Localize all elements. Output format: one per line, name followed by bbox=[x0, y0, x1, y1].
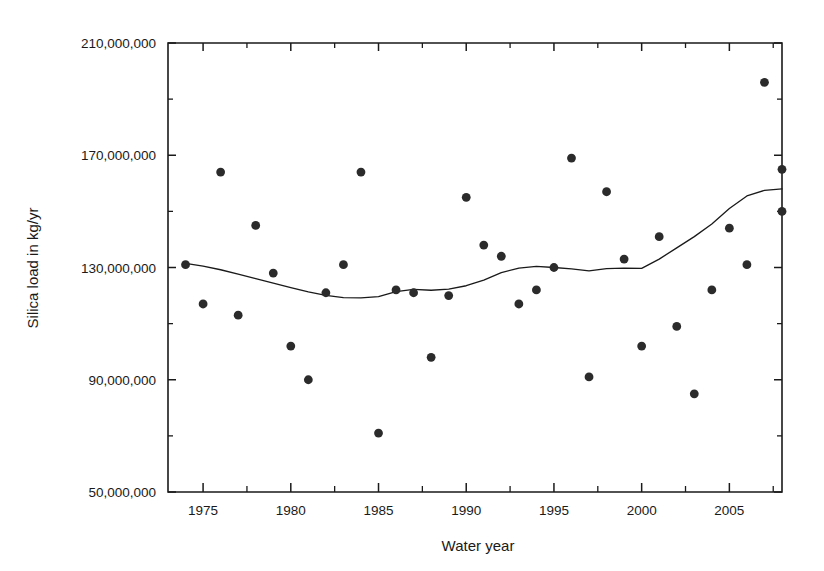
y-tick-label: 50,000,000 bbox=[88, 485, 156, 500]
data-point bbox=[725, 224, 734, 233]
data-point bbox=[216, 168, 225, 177]
data-point bbox=[409, 288, 418, 297]
y-axis-title: Silica load in kg/yr bbox=[24, 208, 41, 329]
data-point bbox=[479, 241, 488, 250]
data-point bbox=[778, 165, 787, 174]
data-point bbox=[427, 353, 436, 362]
data-point bbox=[357, 168, 366, 177]
data-point bbox=[181, 260, 190, 269]
data-point bbox=[374, 429, 383, 438]
data-point bbox=[269, 269, 278, 278]
x-tick-label: 1980 bbox=[276, 503, 306, 518]
data-point bbox=[339, 260, 348, 269]
data-point bbox=[602, 187, 611, 196]
data-point bbox=[637, 342, 646, 351]
data-point bbox=[655, 232, 664, 241]
data-point bbox=[251, 221, 260, 230]
data-point bbox=[620, 255, 629, 264]
data-point bbox=[567, 154, 576, 163]
chart-canvas: 50,000,00090,000,000130,000,000170,000,0… bbox=[0, 0, 824, 571]
data-point bbox=[286, 342, 295, 351]
data-point bbox=[585, 373, 594, 382]
data-point bbox=[392, 286, 401, 295]
data-point bbox=[304, 375, 313, 384]
x-tick-label: 1990 bbox=[451, 503, 481, 518]
data-point bbox=[462, 193, 471, 202]
x-tick-label: 1985 bbox=[363, 503, 393, 518]
y-tick-label: 130,000,000 bbox=[81, 261, 156, 276]
y-tick-label: 90,000,000 bbox=[88, 373, 156, 388]
data-point bbox=[707, 286, 716, 295]
x-axis-title: Water year bbox=[442, 537, 515, 554]
data-point bbox=[743, 260, 752, 269]
x-tick-label: 2000 bbox=[627, 503, 657, 518]
data-point bbox=[532, 286, 541, 295]
data-point bbox=[321, 288, 330, 297]
x-tick-label: 1995 bbox=[539, 503, 569, 518]
data-point bbox=[497, 252, 506, 261]
data-point bbox=[199, 300, 208, 309]
y-tick-label: 210,000,000 bbox=[81, 36, 156, 51]
data-point bbox=[550, 263, 559, 272]
x-tick-label: 1975 bbox=[188, 503, 218, 518]
x-tick-label: 2005 bbox=[714, 503, 744, 518]
data-point bbox=[234, 311, 243, 320]
data-point bbox=[514, 300, 523, 309]
data-point bbox=[778, 207, 787, 216]
data-point bbox=[690, 389, 699, 398]
silica-load-chart: 50,000,00090,000,000130,000,000170,000,0… bbox=[0, 0, 824, 571]
y-tick-label: 170,000,000 bbox=[81, 148, 156, 163]
data-point bbox=[672, 322, 681, 331]
data-point bbox=[760, 78, 769, 87]
data-point bbox=[444, 291, 453, 300]
